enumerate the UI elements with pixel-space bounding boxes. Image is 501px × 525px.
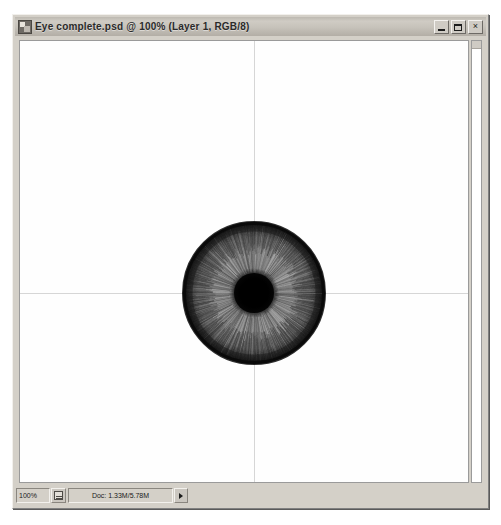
window-titlebar[interactable]: Eye complete.psd @ 100% (Layer 1, RGB/8)…: [15, 17, 486, 36]
document-icon-button[interactable]: [51, 488, 66, 503]
screenshot-root: Eye complete.psd @ 100% (Layer 1, RGB/8)…: [0, 0, 501, 525]
status-filler: [189, 488, 485, 505]
maximize-button[interactable]: [451, 20, 466, 34]
eye-artwork: [179, 218, 329, 368]
eye-iris-graphic: [179, 218, 329, 368]
minimize-button[interactable]: [434, 20, 449, 34]
close-button[interactable]: ×: [468, 20, 483, 34]
document-icon: [54, 491, 63, 500]
photoshop-document-icon: [18, 20, 32, 34]
maximize-icon: [452, 21, 465, 33]
document-size-field[interactable]: Doc: 1.33M/5.78M: [68, 488, 173, 503]
resize-grip[interactable]: [473, 493, 486, 506]
vertical-scrollbar[interactable]: [471, 40, 482, 483]
image-canvas-frame[interactable]: [19, 40, 469, 483]
zoom-level-field[interactable]: 100%: [16, 488, 50, 503]
status-menu-button[interactable]: [174, 488, 188, 503]
canvas-area: [16, 38, 485, 486]
minimize-icon: [435, 21, 448, 33]
close-icon: ×: [469, 21, 482, 33]
chevron-right-icon: [179, 493, 183, 499]
scrollbar-thumb[interactable]: [472, 41, 481, 49]
image-canvas[interactable]: [20, 41, 468, 482]
window-title: Eye complete.psd @ 100% (Layer 1, RGB/8): [35, 21, 434, 33]
photoshop-document-window: Eye complete.psd @ 100% (Layer 1, RGB/8)…: [12, 14, 489, 509]
status-bar: 100% Doc: 1.33M/5.78M: [16, 488, 485, 505]
window-controls: ×: [434, 20, 484, 34]
